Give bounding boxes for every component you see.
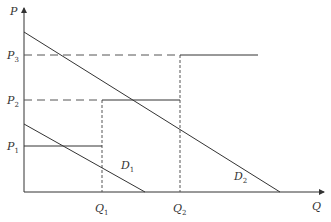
x-axis-label: Q	[312, 200, 321, 213]
p1-label: P1	[6, 140, 19, 155]
q1-label: Q1	[95, 202, 109, 217]
demand-curve-d1	[24, 124, 145, 192]
q2-label: Q2	[173, 202, 187, 217]
d2-label: D2	[233, 170, 247, 185]
demand-diagram: P Q P3 P2 P1 Q1 Q2 D1 D2	[0, 0, 331, 222]
y-axis-label: P	[9, 5, 18, 18]
p2-label: P2	[6, 94, 19, 109]
d1-label: D1	[120, 159, 134, 174]
p3-label: P3	[6, 49, 19, 64]
demand-curve-d2	[24, 32, 280, 192]
